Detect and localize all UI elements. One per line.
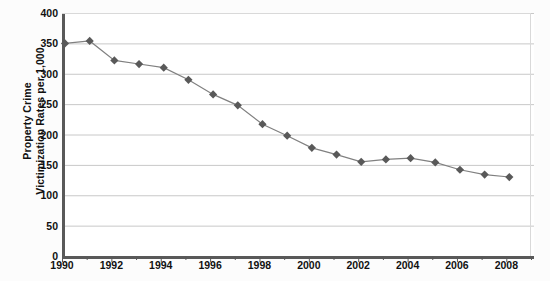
y-axis-tick-label: 150 [24,160,58,170]
data-point-marker [382,155,390,163]
data-point-marker [209,90,217,98]
data-point-marker [308,144,316,152]
data-point-marker [357,158,365,166]
data-point-marker [61,39,69,47]
plot-area [62,13,534,259]
y-axis-tick-label: 300 [24,69,58,79]
data-point-marker [481,170,489,178]
data-point-marker [456,166,464,174]
x-axis-tick-label: 2000 [289,259,329,271]
y-axis-tick-label: 50 [24,221,58,231]
y-axis-tick-labels: 400350300250200150100500 [14,0,58,281]
x-axis-tick-label: 1990 [42,259,82,271]
x-axis-tick-label: 2006 [437,259,477,271]
property-crime-victimization-chart: Property Crime Victimization Rates per 1… [0,0,550,281]
data-point-marker [184,76,192,84]
y-axis-tick-label: 200 [24,130,58,140]
data-point-marker [135,60,143,68]
data-series-line [65,13,534,256]
x-axis-tick-label: 2008 [486,259,526,271]
data-point-marker [160,64,168,72]
y-axis-tick-label: 100 [24,190,58,200]
y-axis-tick-label: 400 [24,8,58,18]
x-axis-tick-label: 1992 [91,259,131,271]
y-axis-tick-label: 250 [24,99,58,109]
x-axis-tick-label: 2002 [338,259,378,271]
data-point-marker [406,154,414,162]
x-axis-tick-label: 2004 [388,259,428,271]
series-polyline [65,41,509,177]
x-axis-tick-label: 1998 [239,259,279,271]
y-axis-tick-label: 350 [24,38,58,48]
x-axis-tick-label: 1994 [141,259,181,271]
data-point-marker [332,150,340,158]
data-point-marker [505,173,513,181]
data-point-marker [431,158,439,166]
data-point-marker [283,132,291,140]
x-axis-tick-label: 1996 [190,259,230,271]
